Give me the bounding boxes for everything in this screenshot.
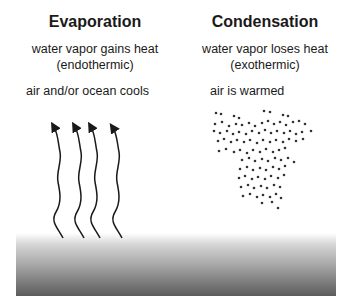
water-droplet-icon [213, 110, 313, 210]
condensation-droplets [0, 0, 349, 306]
